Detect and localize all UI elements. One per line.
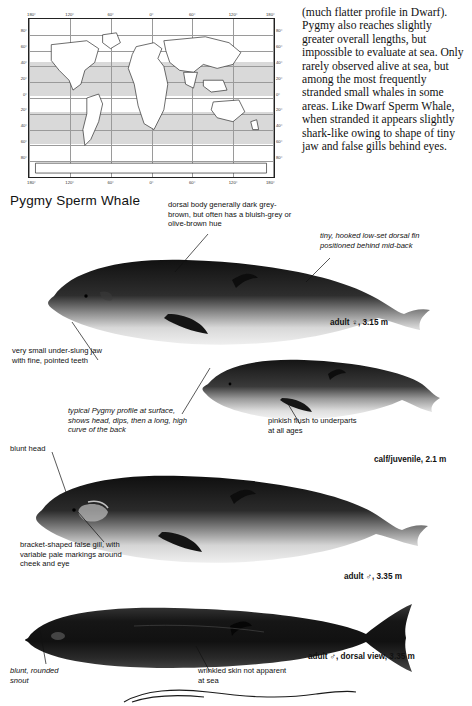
- label-adult-female: adult ♀, 3.15 m: [330, 318, 388, 328]
- page-root: 80° 60° 40° 20° 0° 20° 40° 60° 80° 80° 6…: [0, 0, 472, 706]
- label-adult-male: adult ♂, 3.35 m: [344, 572, 402, 582]
- annotation-blunt-rounded-snout: blunt, rounded snout: [10, 666, 74, 685]
- annotation-dorsal-body: dorsal body generally dark grey-brown, b…: [168, 200, 298, 229]
- annotation-dorsal-fin: tiny, hooked low-set dorsal fin position…: [320, 231, 438, 250]
- label-calf-juvenile: calf/juvenile, 2.1 m: [374, 455, 446, 465]
- annotation-blunt-head: blunt head: [10, 444, 80, 454]
- label-adult-male-dorsal: adult ♂, dorsal view, 3.35 m: [308, 652, 428, 662]
- annotation-typical-profile: typical Pygmy profile at surface, shows …: [68, 406, 192, 435]
- annotation-wrinkled-skin: wrinkled skin not apparent at sea: [198, 666, 290, 685]
- annotation-very-small-jaw: very small under-slung jaw with fine, po…: [12, 346, 108, 365]
- annotation-false-gill: bracket-shaped false gill, with variable…: [20, 540, 142, 569]
- annotation-pinkish-flush: pinkish flush to underparts at all ages: [268, 416, 360, 435]
